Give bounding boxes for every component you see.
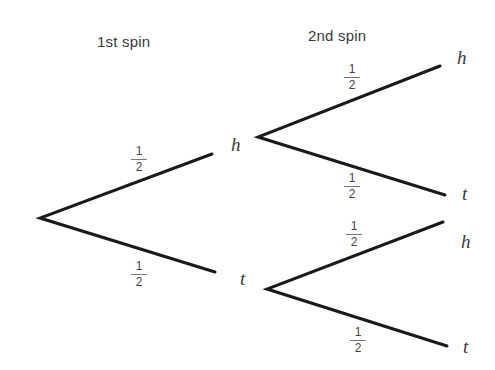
prob-denominator: 2	[131, 161, 147, 174]
prob-second-hh: 1 2	[344, 63, 360, 92]
prob-denominator: 2	[350, 342, 366, 355]
node-second-hh: h	[457, 47, 467, 69]
prob-second-th: 1 2	[346, 220, 362, 249]
prob-numerator: 1	[131, 145, 147, 158]
node-first-h: h	[231, 134, 241, 156]
prob-numerator: 1	[344, 63, 360, 76]
prob-numerator: 1	[344, 172, 360, 185]
node-second-th: h	[461, 231, 471, 253]
node-second-tt: t	[463, 336, 468, 358]
prob-denominator: 2	[344, 79, 360, 92]
node-second-ht: t	[462, 183, 467, 205]
first-spin-branches	[40, 154, 215, 272]
second-spin-header: 2nd spin	[308, 27, 366, 44]
tree-branches	[0, 0, 495, 370]
prob-first-h: 1 2	[131, 145, 147, 174]
prob-numerator: 1	[346, 220, 362, 233]
prob-denominator: 2	[344, 188, 360, 201]
first-spin-header: 1st spin	[97, 33, 150, 50]
prob-first-t: 1 2	[131, 260, 147, 289]
prob-second-tt: 1 2	[350, 326, 366, 355]
prob-second-ht: 1 2	[344, 172, 360, 201]
prob-denominator: 2	[131, 276, 147, 289]
node-first-t: t	[240, 268, 245, 290]
prob-denominator: 2	[346, 236, 362, 249]
prob-numerator: 1	[350, 326, 366, 339]
prob-numerator: 1	[131, 260, 147, 273]
